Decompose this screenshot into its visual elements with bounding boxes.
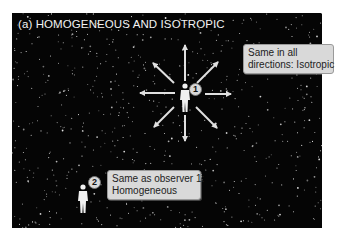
homogeneous-label-line1: Same as observer 1: [112, 173, 197, 185]
homogeneous-label: Same as observer 1: Homogeneous [107, 170, 201, 200]
isotropic-label-line2: directions: Isotropic [248, 59, 330, 71]
arrow-up-left-icon [153, 63, 174, 83]
arrow-down-left-icon [154, 107, 174, 127]
observer-1-badge: 1 [189, 83, 202, 96]
arrow-down-right-icon [196, 107, 217, 128]
starfield-panel: (a) HOMOGENEOUS AND ISOTROPIC 1 Same in … [12, 13, 322, 228]
observer-2-figure-icon [77, 184, 89, 214]
isotropic-label-line1: Same in all [248, 47, 330, 59]
homogeneous-label-line2: Homogeneous [112, 185, 197, 197]
observer-2-badge: 2 [88, 176, 101, 189]
isotropic-label: Same in all directions: Isotropic [243, 44, 334, 74]
arrow-up-right-icon [197, 62, 218, 83]
